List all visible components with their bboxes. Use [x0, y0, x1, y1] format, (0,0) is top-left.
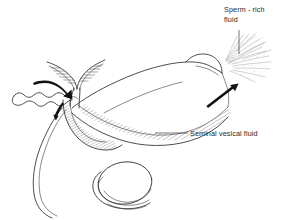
spray-stipple: [230, 37, 269, 79]
seminal-vesicle-right-hatching: [74, 66, 110, 81]
shaft-interior-line: [104, 82, 182, 113]
testis-and-scrotum: [93, 158, 155, 209]
scrotal-raphe: [108, 204, 146, 209]
ejaculatory-duct-right: [79, 88, 80, 108]
epididymis-upper-wall: [14, 93, 71, 98]
testis-oval: [95, 158, 155, 208]
diagram-canvas: Sperm - rich fluid Seminal vesical fluid: [0, 0, 291, 220]
vas-deferens-flow-arrow: [53, 102, 64, 120]
sperm-rich-fluid-label-line1: Sperm - rich: [224, 5, 265, 14]
urethral-flow-arrow: [206, 83, 238, 108]
seminal-vesicle-left-inner: [49, 66, 75, 90]
seminal-vesicle-right-inner: [80, 64, 104, 90]
anatomical-diagram-figure: Sperm - rich fluid Seminal vesical fluid: [0, 0, 291, 220]
glans-inner-line: [196, 66, 218, 75]
sperm-rich-fluid-label-line2: fluid: [224, 15, 238, 24]
vas-deferens-inner: [39, 110, 66, 216]
vas-deferens-outer: [33, 108, 62, 218]
seminal-vesical-fluid-label: Seminal vesical fluid: [190, 129, 258, 138]
vas-deferens-tube: [33, 108, 66, 218]
sperm-spray: [226, 33, 271, 82]
seminal-vesicle-left-hatching: [44, 68, 80, 83]
